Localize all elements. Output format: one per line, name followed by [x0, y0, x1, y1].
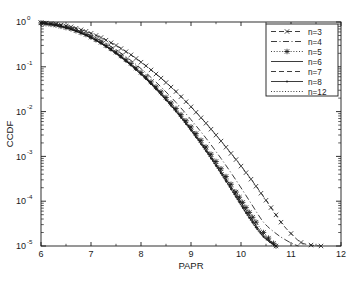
x-tick-label: 8 — [138, 249, 143, 259]
series-line-n12 — [41, 23, 276, 246]
series-line-n7 — [41, 23, 276, 246]
y-tick-exponent: -5 — [27, 238, 33, 245]
legend-label-n8[interactable]: n=8 — [308, 78, 322, 87]
legend-label-n7[interactable]: n=7 — [308, 68, 322, 77]
y-tick-exponent: -1 — [27, 59, 33, 66]
y-tick-exponent: -4 — [27, 193, 33, 200]
series-marker — [225, 180, 227, 182]
legend-label-n6[interactable]: n=6 — [308, 58, 322, 67]
y-tick-label: 10 — [16, 107, 26, 117]
ccdf-plot: 678910111210010-110-210-310-410-5PAPRCCD… — [0, 0, 356, 283]
y-tick-label: 10 — [16, 62, 26, 72]
series-marker — [205, 150, 207, 152]
legend-label-n12[interactable]: n=12 — [308, 88, 327, 97]
y-tick-label: 10 — [16, 152, 26, 162]
legend-label-n5[interactable]: n=5 — [308, 48, 322, 57]
x-tick-label: 6 — [38, 249, 43, 259]
legend-box[interactable] — [266, 24, 338, 96]
chart-figure: 678910111210010-110-210-310-410-5PAPRCCD… — [0, 0, 356, 283]
series-line-n8 — [41, 23, 276, 246]
series-marker — [263, 236, 265, 238]
x-axis-label: PAPR — [178, 260, 203, 271]
x-tick-label: 11 — [286, 249, 295, 259]
series-line-n6 — [41, 23, 276, 246]
y-axis-label: CCDF — [4, 121, 15, 148]
series-marker — [286, 81, 288, 83]
y-tick-exponent: 0 — [27, 14, 31, 21]
series-marker — [195, 136, 197, 138]
series-line-n5 — [41, 23, 276, 246]
series-marker — [190, 129, 192, 131]
x-tick-label: 12 — [336, 249, 346, 259]
legend-label-n3[interactable]: n=3 — [308, 28, 322, 37]
x-tick-label: 7 — [88, 249, 93, 259]
y-tick-label: 10 — [16, 241, 26, 251]
x-tick-label: 10 — [236, 249, 246, 259]
y-tick-exponent: -3 — [27, 148, 33, 155]
y-tick-label: 10 — [16, 17, 26, 27]
legend-label-n4[interactable]: n=4 — [308, 38, 322, 47]
y-tick-exponent: -2 — [27, 103, 33, 110]
y-tick-label: 10 — [16, 196, 26, 206]
series-line-n4 — [41, 23, 299, 246]
x-tick-label: 9 — [188, 249, 193, 259]
series-marker — [50, 24, 52, 26]
